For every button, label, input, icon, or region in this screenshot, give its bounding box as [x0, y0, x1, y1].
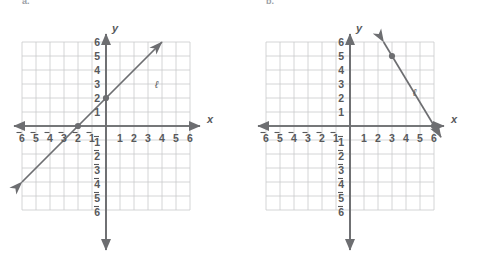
x-tick-label: 2	[319, 132, 325, 144]
coordinate-plane-a: 6 5 4 3 2 1 1 2 3 4 5 6 6 5	[0, 0, 244, 263]
point-marker	[431, 123, 437, 129]
point-marker	[103, 95, 109, 101]
x-tick-label: 6	[431, 132, 437, 144]
y-tick-label: 5	[94, 50, 100, 62]
y-tick-label: 2	[94, 92, 100, 104]
x-axis-tick-labels-a: 6 5 4 3 2 1 1 2 3 4 5 6	[17, 132, 194, 144]
x-tick-label: 4	[403, 132, 409, 144]
y-tick-label: 2	[338, 92, 344, 104]
y-tick-label: 3	[94, 164, 100, 176]
y-tick-label: 1	[338, 136, 344, 148]
y-tick-label: 6	[94, 206, 100, 218]
x-tick-label: 6	[263, 132, 269, 144]
y-tick-label: 4	[94, 178, 100, 190]
y-tick-label: 3	[338, 164, 344, 176]
x-tick-label: 3	[145, 132, 151, 144]
x-tick-label: 1	[117, 132, 123, 144]
x-tick-label: 5	[417, 132, 423, 144]
y-tick-label: 6	[338, 36, 344, 48]
y-tick-label: 5	[338, 50, 344, 62]
graph-panel-b: b.	[244, 0, 488, 263]
x-tick-label: 5	[33, 132, 39, 144]
y-tick-label: 5	[94, 192, 100, 204]
x-axis-tick-labels-b: 6 5 4 3 2 1 1 2 3 4 5 6	[261, 132, 438, 144]
y-tick-label: 2	[338, 150, 344, 162]
x-tick-label: 5	[277, 132, 283, 144]
x-tick-label: 3	[389, 132, 395, 144]
y-axis-tick-labels-a: 6 5 4 3 2 1 1 2 3 4 5 6	[94, 36, 100, 218]
x-tick-label: 4	[47, 132, 53, 144]
y-tick-label: 6	[338, 206, 344, 218]
x-tick-label: 4	[291, 132, 297, 144]
x-tick-label: 3	[305, 132, 311, 144]
x-tick-label: 2	[131, 132, 137, 144]
y-tick-label: 3	[94, 78, 100, 90]
x-tick-label: 2	[375, 132, 381, 144]
y-tick-label: 1	[338, 106, 344, 118]
y-axis-label: y	[111, 22, 119, 34]
x-tick-label: 3	[61, 132, 67, 144]
x-tick-label: 4	[159, 132, 165, 144]
x-tick-label: 5	[173, 132, 179, 144]
y-axis-tick-labels-b: 6 5 4 3 2 1 1 2 3 4 5 6	[338, 36, 344, 218]
y-tick-label: 1	[94, 106, 100, 118]
y-tick-label: 4	[94, 64, 100, 76]
y-tick-label: 6	[94, 36, 100, 48]
point-marker	[389, 53, 395, 59]
y-tick-label: 3	[338, 78, 344, 90]
y-tick-label: 1	[94, 136, 100, 148]
graph-panel-a: a.	[0, 0, 244, 263]
two-graph-figure: a.	[0, 0, 488, 263]
x-tick-label: 6	[187, 132, 193, 144]
y-axis-label: y	[355, 22, 363, 34]
y-tick-label: 2	[94, 150, 100, 162]
x-tick-label: 6	[19, 132, 25, 144]
x-axis-label: x	[450, 113, 458, 125]
line-label-ell: ℓ	[154, 79, 159, 90]
x-tick-label: 1	[361, 132, 367, 144]
coordinate-plane-b: 6 5 4 3 2 1 1 2 3 4 5 6 6 5	[244, 0, 488, 263]
y-tick-label: 4	[338, 178, 344, 190]
point-marker	[75, 123, 81, 129]
x-axis-label: x	[206, 113, 214, 125]
y-tick-label: 4	[338, 64, 344, 76]
y-tick-label: 5	[338, 192, 344, 204]
x-tick-label: 2	[75, 132, 81, 144]
